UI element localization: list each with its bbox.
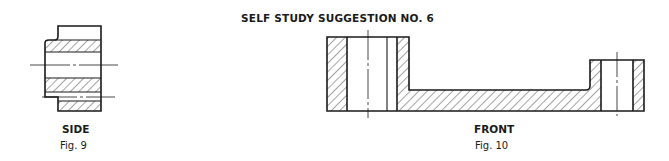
figure-caption-9: Fig. 9 xyxy=(60,140,87,151)
technical-drawing xyxy=(0,0,669,161)
side-view-label: SIDE xyxy=(62,123,89,135)
figure-caption-10: Fig. 10 xyxy=(475,140,508,151)
front-left-boss-hatch xyxy=(327,37,347,111)
page-title: SELF STUDY SUGGESTION NO. 6 xyxy=(241,12,434,24)
side-hatch-middle xyxy=(45,78,101,92)
front-view-drawing xyxy=(327,30,644,118)
front-right-boss-hatch xyxy=(633,60,644,111)
side-outline xyxy=(45,26,101,111)
front-base-hatch xyxy=(397,37,601,111)
side-view-drawing xyxy=(30,26,118,111)
side-hatch-bottom xyxy=(58,101,101,111)
side-hatch-top xyxy=(45,40,101,52)
front-view-label: FRONT xyxy=(474,123,514,135)
